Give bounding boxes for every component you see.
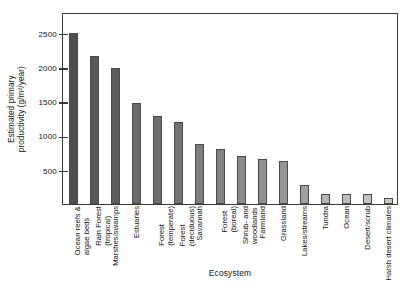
- x-axis-category-label: Forest(boreal): [221, 206, 238, 233]
- bar[interactable]: [300, 185, 310, 204]
- x-axis-category-label: Forest(temperate): [158, 206, 175, 246]
- x-axis-category-label: Farmland: [259, 206, 268, 238]
- x-axis-category-label-line: (boreal): [230, 206, 239, 233]
- x-axis-category-label: Lakes/streams: [301, 206, 310, 256]
- y-axis-tick-label: 2500: [15, 29, 57, 38]
- bar-series: [63, 14, 397, 204]
- bar[interactable]: [90, 56, 100, 204]
- bar[interactable]: [132, 103, 142, 204]
- x-axis-category-label: Savannah: [196, 206, 205, 241]
- x-axis-category-label: Forest(deciduous): [179, 206, 196, 246]
- x-axis-category-labels: Ocean reefs &algae bedsRain Forest(tropi…: [62, 206, 398, 303]
- y-axis-tick-label: 2000: [15, 63, 57, 72]
- bar[interactable]: [258, 159, 268, 204]
- bar[interactable]: [363, 194, 373, 204]
- bar-chart-figure: Estimated primary productivity (g/m²/yea…: [0, 0, 417, 303]
- x-axis-category-label: Desert/scrub: [364, 206, 373, 250]
- x-axis-category-label: Grassland: [280, 206, 289, 241]
- x-axis-category-label-line: Grassland: [280, 206, 289, 241]
- plot-area: [62, 13, 398, 205]
- x-axis-category-label: Tundra: [322, 206, 331, 230]
- x-axis-title: Ecosystem: [62, 268, 398, 278]
- x-axis-category-label-line: Farmland: [259, 206, 268, 238]
- bar[interactable]: [384, 198, 394, 204]
- x-axis-category-label-line: Marshes/swamps: [112, 206, 121, 266]
- y-axis-tick-label: 1000: [15, 132, 57, 141]
- bar[interactable]: [69, 33, 79, 204]
- bar[interactable]: [153, 116, 163, 204]
- bar[interactable]: [237, 156, 247, 204]
- y-axis-tick-labels: 5001000150020002500: [8, 0, 57, 303]
- x-axis-category-label-line: algae beds: [83, 206, 92, 255]
- bar[interactable]: [174, 122, 184, 204]
- x-axis-category-label: Rain Forest(tropical): [95, 206, 112, 246]
- bar[interactable]: [216, 149, 226, 204]
- x-axis-category-label-line: Tundra: [322, 206, 331, 230]
- x-axis-category-label-line: Desert/scrub: [364, 206, 373, 250]
- x-axis-category-label-line: Estuaries: [133, 206, 142, 238]
- x-axis-category-label-line: Lakes/streams: [301, 206, 310, 256]
- x-axis-category-label: Shrub- andwoodlands: [242, 206, 259, 244]
- x-axis-category-label-line: Savannah: [196, 206, 205, 241]
- x-axis-category-label: Estuaries: [133, 206, 142, 238]
- x-axis-category-label-line: Ocean: [343, 206, 352, 229]
- bar[interactable]: [321, 194, 331, 204]
- bar[interactable]: [279, 161, 289, 204]
- x-axis-category-label: Ocean reefs &algae beds: [74, 206, 91, 255]
- x-axis-category-label: Marshes/swamps: [112, 206, 121, 266]
- x-axis-category-label: Ocean: [343, 206, 352, 229]
- bar[interactable]: [111, 68, 121, 204]
- y-axis-tick-label: 1500: [15, 98, 57, 107]
- x-axis-category-label-line: (temperate): [167, 206, 176, 246]
- bar[interactable]: [195, 144, 205, 204]
- y-axis-tick-label: 500: [15, 166, 57, 175]
- bar[interactable]: [342, 194, 352, 204]
